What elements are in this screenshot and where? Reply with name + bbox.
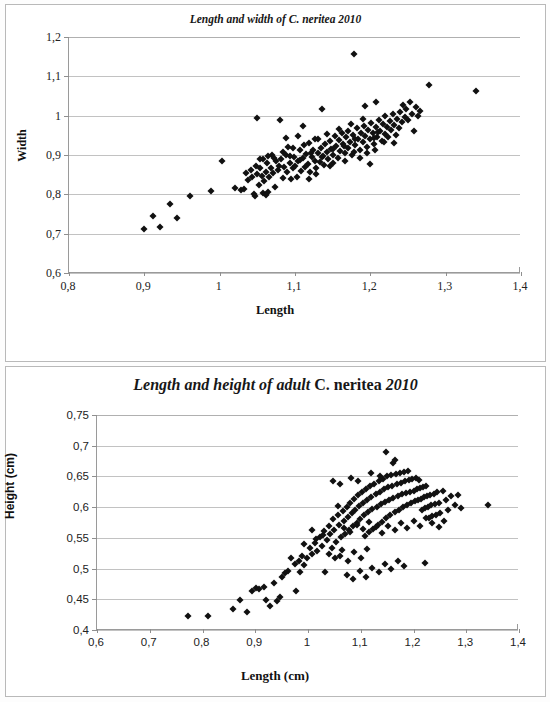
scatter-point <box>350 575 357 582</box>
x-tick-label: 0,7 <box>141 636 157 648</box>
scatter-point <box>410 517 417 524</box>
scatter-point <box>141 225 148 232</box>
gridline <box>97 569 518 570</box>
scatter-point <box>439 488 446 495</box>
x-tick-label: 0,9 <box>246 636 262 648</box>
scatter-point <box>422 559 429 566</box>
scatter-point <box>309 527 316 534</box>
scatter-point <box>371 146 378 153</box>
scatter-point <box>166 201 173 208</box>
scatter-point <box>472 87 479 94</box>
scatter-point <box>279 174 286 181</box>
x-tick-label: 1,4 <box>513 279 528 294</box>
y-tick-label: 0,5 <box>73 563 89 575</box>
scatter-point <box>282 135 289 142</box>
x-tick-label: 1,2 <box>362 279 377 294</box>
gridline <box>97 446 518 447</box>
x-tick-label: 0,8 <box>61 279 76 294</box>
chart2-title-year: 2010 <box>386 376 418 393</box>
y-axis-tick <box>64 155 69 156</box>
scatter-point <box>157 224 164 231</box>
y-tick-label: 0,8 <box>46 187 61 202</box>
y-tick-label: 0,4 <box>73 624 89 636</box>
chart2-title-species-name: C. neritea <box>314 376 386 393</box>
x-axis-tick <box>97 629 98 633</box>
scatter-point <box>150 212 157 219</box>
chart2-plot-area <box>96 415 518 630</box>
scatter-point <box>388 566 395 573</box>
gridline <box>69 234 520 235</box>
chart1-y-axis-title: Width <box>15 129 30 161</box>
chart2-title-italic-part: Length and height of adult <box>133 376 314 393</box>
scatter-point <box>336 480 343 487</box>
scatter-point <box>385 522 392 529</box>
scatter-point <box>318 542 325 549</box>
x-axis-tick <box>203 629 204 633</box>
scatter-point <box>271 184 278 191</box>
scatter-point <box>319 105 326 112</box>
gridline <box>69 194 520 195</box>
scatter-point <box>204 612 211 619</box>
scatter-point <box>301 561 308 568</box>
scatter-point <box>271 580 278 587</box>
scatter-point <box>367 160 374 167</box>
x-axis-tick <box>414 629 415 633</box>
y-axis-tick <box>92 446 97 447</box>
y-axis-tick <box>92 415 97 416</box>
scatter-point <box>455 491 462 498</box>
scatter-point <box>229 605 236 612</box>
scatter-point <box>313 170 320 177</box>
scatter-point <box>341 158 348 165</box>
scatter-point <box>435 523 442 530</box>
scatter-point <box>345 558 352 565</box>
x-tick-label: 0,8 <box>194 636 210 648</box>
x-tick-label: 1,1 <box>287 279 302 294</box>
scatter-point <box>299 122 306 129</box>
scatter-point <box>359 116 366 123</box>
x-axis-tick <box>255 629 256 633</box>
x-axis-tick <box>521 272 522 276</box>
scatter-point <box>404 117 411 124</box>
y-axis-tick <box>92 569 97 570</box>
x-axis-tick <box>361 629 362 633</box>
chart1-title: Length and width of C. neritea 2010 <box>6 13 545 25</box>
y-tick-label: 0,6 <box>46 266 61 281</box>
y-axis-tick <box>92 476 97 477</box>
scatter-point <box>350 51 357 58</box>
y-tick-label: 0,7 <box>46 226 61 241</box>
scatter-point <box>334 502 341 509</box>
scatter-point <box>392 132 399 139</box>
x-axis-tick <box>150 629 151 633</box>
x-axis-tick <box>308 629 309 633</box>
y-axis-tick <box>92 538 97 539</box>
scatter-point <box>416 522 423 529</box>
x-axis-tick <box>370 272 371 276</box>
y-tick-label: 0,7 <box>73 440 89 452</box>
gridline <box>69 76 520 77</box>
x-tick-label: 1,3 <box>457 636 473 648</box>
y-axis-tick <box>92 599 97 600</box>
x-tick-label: 1,2 <box>405 636 421 648</box>
y-tick-label: 1,1 <box>46 69 61 84</box>
chart1-x-axis-title: Length <box>0 303 550 318</box>
x-axis-tick <box>295 272 296 276</box>
scatter-point <box>391 527 398 534</box>
gridline <box>97 415 518 416</box>
scatter-point <box>410 128 417 135</box>
x-axis-tick <box>69 272 70 276</box>
chart1-axis-right-cap <box>519 267 520 272</box>
x-axis-tick <box>466 629 467 633</box>
x-tick-label: 1,4 <box>510 636 526 648</box>
gridline <box>69 37 520 38</box>
scatter-point <box>441 517 448 524</box>
x-axis-tick <box>220 272 221 276</box>
scatter-point <box>184 612 191 619</box>
x-tick-label: 1,1 <box>352 636 368 648</box>
scatter-point <box>351 548 358 555</box>
x-tick-label: 1 <box>304 636 310 648</box>
chart2-title: Length and height of adult C. neritea 20… <box>6 376 545 394</box>
scatter-point <box>378 529 385 536</box>
scatter-point <box>237 596 244 603</box>
scatter-point <box>403 105 410 112</box>
x-axis-tick <box>144 272 145 276</box>
